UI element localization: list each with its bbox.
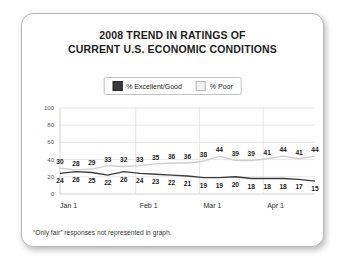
point-label: 41 (295, 149, 303, 156)
legend-item-poor: % Poor (196, 81, 233, 91)
legend-swatch-poor (196, 81, 206, 91)
point-label: 44 (279, 146, 287, 153)
x-tick-label: Apr 1 (267, 202, 284, 210)
y-axis-tick-labels: 020406080100 (44, 105, 55, 197)
y-tick-label: 60 (47, 139, 54, 145)
chart-title-line-1: 2008 TREND IN RATINGS OF (22, 29, 323, 43)
chart-title: 2008 TREND IN RATINGS OF CURRENT U.S. EC… (22, 29, 323, 56)
point-label: 17 (295, 183, 303, 190)
point-label: 29 (88, 159, 96, 166)
point-label: 30 (56, 158, 64, 165)
data-point-labels: 3028293332333536363844393941444144242625… (56, 146, 319, 192)
point-label: 15 (311, 185, 319, 192)
legend-swatch-excellent-good (112, 81, 122, 91)
point-label: 18 (248, 183, 256, 190)
point-label: 36 (168, 153, 176, 160)
y-tick-label: 0 (51, 191, 55, 197)
point-label: 39 (248, 150, 256, 157)
chart-footnote: “Only fair” responses not represented in… (33, 229, 172, 236)
plot-area: 020406080100 302829333233353636384439394… (22, 102, 323, 220)
point-label: 44 (311, 146, 319, 153)
point-label: 33 (104, 156, 112, 163)
x-tick-label: Feb 1 (140, 202, 158, 209)
chart-title-line-2: CURRENT U.S. ECONOMIC CONDITIONS (22, 43, 323, 57)
point-label: 22 (168, 179, 176, 186)
point-label: 26 (72, 176, 80, 183)
point-label: 38 (200, 151, 208, 158)
point-label: 41 (264, 149, 272, 156)
y-tick-label: 40 (47, 157, 54, 163)
point-label: 36 (184, 153, 192, 160)
point-label: 23 (152, 178, 160, 185)
point-label: 21 (184, 180, 192, 187)
point-label: 33 (136, 156, 144, 163)
chart-card: 2008 TREND IN RATINGS OF CURRENT U.S. EC… (21, 13, 324, 247)
point-label: 18 (264, 183, 272, 190)
point-label: 22 (104, 179, 112, 186)
point-label: 18 (279, 183, 287, 190)
legend-label-excellent-good: % Excellent/Good (126, 83, 182, 90)
legend-item-excellent-good: % Excellent/Good (112, 81, 182, 91)
point-label: 19 (216, 182, 224, 189)
point-label: 32 (120, 156, 128, 163)
chart-legend: % Excellent/Good % Poor (103, 77, 242, 95)
legend-label-poor: % Poor (210, 83, 233, 90)
point-label: 39 (232, 150, 240, 157)
point-label: 35 (152, 154, 160, 161)
point-label: 20 (232, 181, 240, 188)
point-label: 24 (56, 177, 64, 184)
x-tick-label: Mar 1 (203, 202, 221, 209)
point-label: 26 (120, 176, 128, 183)
y-tick-label: 100 (44, 105, 55, 111)
y-tick-label: 80 (47, 122, 54, 128)
y-tick-label: 20 (47, 174, 54, 180)
point-label: 24 (136, 177, 144, 184)
line-chart-svg: 020406080100 302829333233353636384439394… (22, 102, 325, 220)
x-tick-label: Jan 1 (60, 202, 77, 209)
x-axis-tick-labels: Jan 1Feb 1Mar 1Apr 1 (60, 202, 284, 210)
point-label: 28 (72, 160, 80, 167)
point-label: 44 (216, 146, 224, 153)
point-label: 19 (200, 182, 208, 189)
point-label: 25 (88, 177, 96, 184)
